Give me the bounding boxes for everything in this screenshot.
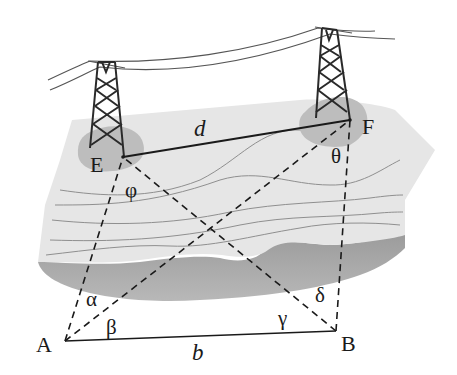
label-point-b: B [341,331,356,356]
triangulation-diagram: E F A B d b θ φ α β γ δ [0,0,457,375]
label-angle-phi: φ [125,178,137,202]
label-angle-alpha: α [86,287,97,311]
label-angle-gamma: γ [277,306,287,330]
label-baseline-b: b [192,340,204,365]
vertex-f [348,118,352,122]
label-angle-beta: β [106,315,117,339]
label-angle-theta: θ [331,144,341,168]
vertex-e [121,155,125,159]
label-angle-delta: δ [315,283,325,307]
label-point-f: F [362,114,374,139]
terrain-top [38,100,435,263]
label-distance-d: d [194,116,206,141]
label-point-a: A [36,332,52,357]
label-point-e: E [90,152,103,177]
